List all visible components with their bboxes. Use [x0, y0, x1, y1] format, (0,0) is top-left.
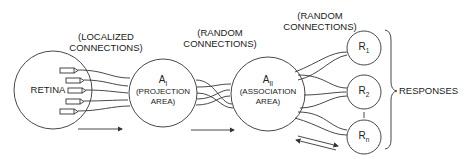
- node-name: AI: [130, 74, 196, 87]
- node-sub: I: [165, 80, 167, 87]
- node-sub: II: [270, 80, 274, 87]
- label-line: (RANDOM: [180, 27, 260, 38]
- label-line: (RANDOM: [280, 10, 360, 21]
- response-rn: Rn: [350, 130, 378, 143]
- feedback-arrow-back: [296, 140, 336, 150]
- label-line: CONNECTIONS): [180, 38, 260, 49]
- node-sub: n: [366, 136, 370, 143]
- node-desc: AREA): [232, 97, 304, 107]
- node-sub: 2: [366, 91, 370, 98]
- node-desc: AREA): [130, 97, 196, 107]
- retina-label: RETINA: [28, 84, 68, 95]
- node-letter: A: [263, 74, 270, 85]
- random-connections-1: [196, 80, 233, 108]
- projection-area-node: AI (PROJECTION AREA): [130, 74, 196, 107]
- node-letter: R: [359, 41, 366, 52]
- responses-brace: [385, 30, 397, 149]
- label-line: CONNECTIONS): [62, 42, 150, 53]
- localized-connections-label: (LOCALIZED CONNECTIONS): [62, 31, 150, 53]
- random-connections-label-2: (RANDOM CONNECTIONS): [280, 10, 360, 32]
- label-line: CONNECTIONS): [280, 21, 360, 32]
- association-area-node: AII (ASSOCIATION AREA): [232, 74, 304, 107]
- node-desc: (ASSOCIATION: [232, 87, 304, 97]
- response-r2: R2: [350, 85, 378, 98]
- node-letter: R: [359, 130, 366, 141]
- node-name: AII: [232, 74, 304, 87]
- node-desc: (PROJECTION: [130, 87, 196, 97]
- node-letter: R: [359, 85, 366, 96]
- label-line: (LOCALIZED: [62, 31, 150, 42]
- responses-label: RESPONSES: [399, 85, 458, 96]
- feedback-arrow-forward: [298, 136, 338, 146]
- node-sub: 1: [366, 47, 370, 54]
- random-connections-label-1: (RANDOM CONNECTIONS): [180, 27, 260, 49]
- response-r1: R1: [350, 41, 378, 54]
